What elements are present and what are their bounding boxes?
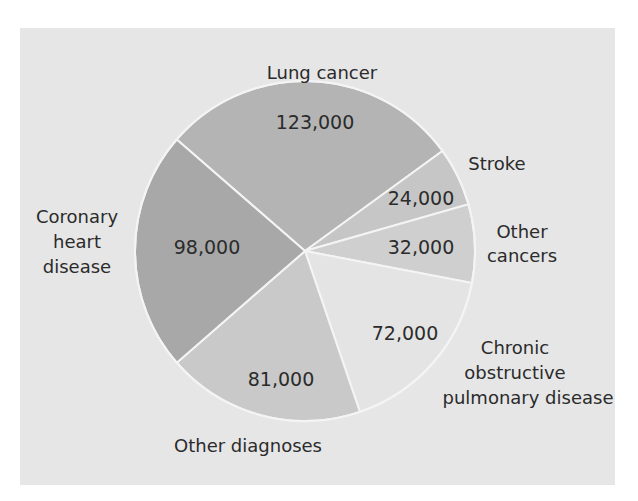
category-label-coronary-line2: heart [53, 231, 101, 252]
value-label-lung-cancer: 123,000 [276, 111, 355, 133]
category-label-copd-line1: Chronic [481, 337, 549, 358]
category-label-stroke: Stroke [468, 153, 525, 174]
category-label-other-cancers-line2: cancers [487, 245, 557, 266]
category-label-coronary-line1: Coronary [36, 206, 118, 227]
category-label-copd-line3: pulmonary disease [443, 387, 614, 408]
category-label-other-diagnoses: Other diagnoses [174, 435, 322, 456]
category-label-coronary-line3: disease [43, 256, 111, 277]
value-label-other-cancers: 32,000 [388, 236, 454, 258]
value-label-other-diagnoses: 81,000 [248, 368, 314, 390]
category-label-lung-cancer: Lung cancer [267, 62, 378, 83]
value-label-copd: 72,000 [372, 322, 438, 344]
category-label-other-cancers-line1: Other [496, 221, 548, 242]
category-label-copd-line2: obstructive [464, 362, 565, 383]
pie-chart: 123,000 24,000 32,000 72,000 81,000 98,0… [0, 0, 638, 501]
value-label-coronary-heart-disease: 98,000 [174, 236, 240, 258]
value-label-stroke: 24,000 [388, 187, 454, 209]
